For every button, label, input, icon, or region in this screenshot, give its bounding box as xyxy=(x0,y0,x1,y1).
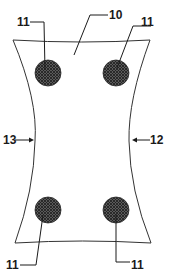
leader-10 xyxy=(74,15,108,55)
label-13: 13 xyxy=(3,133,17,147)
label-12: 12 xyxy=(150,133,164,147)
panel-top-edge xyxy=(13,40,150,42)
panel-outline xyxy=(13,40,151,243)
label-11-bottom-left: 11 xyxy=(6,258,19,272)
leader-11-bottom-left xyxy=(20,215,43,265)
dots xyxy=(35,60,129,223)
label-11-bottom-right: 11 xyxy=(131,258,144,272)
dot-top-right xyxy=(103,60,129,86)
arrowhead-13-icon xyxy=(29,138,34,143)
hourglass-panel-diagram: 11 10 11 13 12 11 11 xyxy=(0,0,169,274)
arrowhead-12-icon xyxy=(132,138,137,143)
label-11-top-right: 11 xyxy=(141,15,154,29)
panel-bottom-edge xyxy=(15,241,151,243)
dot-top-left xyxy=(35,60,61,86)
label-11-top-left: 11 xyxy=(17,15,30,29)
dot-bottom-left xyxy=(35,197,61,223)
label-10: 10 xyxy=(109,8,123,22)
panel-right-edge xyxy=(129,40,151,243)
